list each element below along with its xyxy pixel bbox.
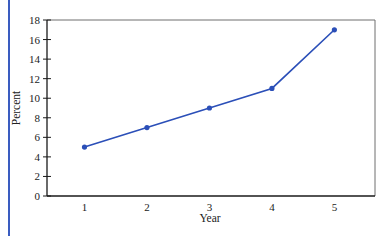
x-tick-label: 2 — [144, 201, 150, 213]
data-point — [332, 27, 337, 32]
y-tick-label: 14 — [29, 53, 41, 65]
y-tick-label: 4 — [35, 151, 41, 163]
data-point — [144, 125, 149, 130]
data-point — [82, 145, 87, 150]
data-point — [207, 105, 212, 110]
y-axis-title: Percent — [10, 90, 22, 125]
y-tick-label: 6 — [35, 131, 41, 143]
line-chart: 024681012141618 12345 Year Percent — [0, 0, 391, 236]
x-tick-label: 4 — [269, 201, 275, 213]
y-tick-label: 8 — [35, 112, 41, 124]
series-line — [84, 30, 334, 147]
x-tick-label: 1 — [82, 201, 88, 213]
series-group — [82, 27, 337, 150]
y-axis: 024681012141618 — [29, 14, 51, 202]
y-tick-label: 16 — [29, 34, 41, 46]
data-point — [269, 86, 274, 91]
y-tick-label: 10 — [29, 92, 41, 104]
y-tick-label: 0 — [35, 190, 41, 202]
y-tick-label: 12 — [29, 73, 40, 85]
x-axis-title: Year — [199, 212, 220, 224]
x-tick-label: 5 — [332, 201, 338, 213]
y-tick-label: 18 — [29, 14, 41, 26]
y-tick-label: 2 — [35, 170, 41, 182]
